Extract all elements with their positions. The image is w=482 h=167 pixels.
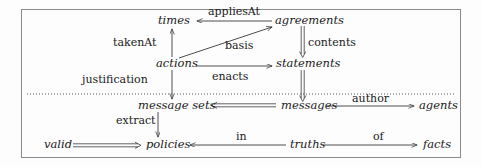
edge-label-contents: contents [308, 37, 356, 48]
edge-label-basis: basis [225, 40, 253, 51]
edge-label-enacts: enacts [212, 71, 248, 82]
node-message-sets[interactable]: message sets [138, 100, 215, 112]
edge-label-justification: justification [82, 74, 148, 85]
node-truths[interactable]: truths [290, 139, 325, 151]
node-messages[interactable]: messages [281, 100, 337, 112]
node-valid[interactable]: valid [44, 139, 72, 151]
diagram-canvas: times agreements actions statements mess… [0, 0, 482, 167]
edge-label-extract: extract [116, 115, 156, 126]
edge-label-author: author [352, 93, 389, 104]
edge-label-of: of [373, 131, 384, 142]
node-agents[interactable]: agents [419, 100, 458, 112]
edge-label-appliesAt: appliesAt [208, 6, 260, 17]
edge-label-takenAt: takenAt [113, 37, 156, 48]
edge-label-in: in [236, 131, 247, 142]
node-agreements[interactable]: agreements [275, 15, 344, 27]
node-actions[interactable]: actions [156, 58, 198, 70]
node-policies[interactable]: policies [146, 139, 190, 151]
node-times[interactable]: times [158, 15, 190, 27]
node-statements[interactable]: statements [276, 58, 340, 70]
node-facts[interactable]: facts [423, 139, 451, 151]
